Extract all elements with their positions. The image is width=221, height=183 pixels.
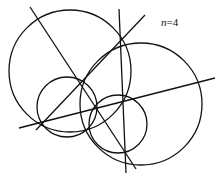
circle-line-diagram [0, 0, 221, 183]
large-left-circle [9, 10, 131, 132]
n-value: 4 [173, 16, 179, 28]
n-equals-4-label: n=4 [161, 16, 178, 28]
large-right-circle [80, 43, 202, 165]
shallow-line [19, 78, 215, 128]
diagonal-line-2 [36, 15, 145, 130]
small-right-circle [89, 95, 147, 153]
small-left-circle [37, 77, 97, 137]
